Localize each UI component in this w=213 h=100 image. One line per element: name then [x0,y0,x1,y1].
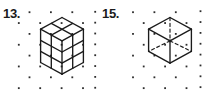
worksheet-page: 13. 15. [0,0,213,100]
visible-edge [170,51,191,63]
grid-dot [200,43,202,45]
grid-dot [94,33,96,35]
grid-dot [29,33,31,35]
grid-dot [39,87,41,89]
grid-dot [82,66,84,68]
grid-dot [29,55,31,57]
grid-dot [164,87,166,89]
visible-edge [149,18,170,30]
grid-dot [94,54,96,56]
grid-dot [186,22,188,24]
grid-dot [200,86,202,88]
grid-dot [132,33,134,35]
grid-dot [132,76,134,78]
grid-dot [94,87,96,89]
visible-edge [170,18,191,30]
hidden-edge [170,41,191,52]
grid-dot [154,11,156,13]
grid-dot [94,76,96,78]
grid-dot [186,44,188,46]
grid-dot [175,33,177,35]
visible-edge [149,51,170,63]
grid-dot [29,11,31,13]
grid-dot [94,65,96,67]
grid-dot [200,10,202,12]
grid-dot [164,22,166,24]
grid-dot [39,66,41,68]
grid-dot [82,22,84,24]
vertex-node [169,40,172,43]
grid-dot [18,44,20,46]
grid-dot [132,11,134,13]
isometric-figures-svg [0,0,213,100]
grid-dot [143,66,145,68]
grid-dot [61,87,63,89]
grid-dot [200,75,202,77]
grid-dot [175,76,177,78]
grid-dot [186,66,188,68]
grid-dot [94,11,96,13]
grid-dot [39,22,41,24]
grid-dot [18,22,20,24]
grid-dot [200,65,202,67]
grid-dot [61,22,63,24]
grid-dot [50,76,52,78]
grid-dot [200,21,202,23]
grid-dot [29,76,31,78]
grid-dot [164,66,166,68]
grid-dot [18,87,20,89]
grid-dot [143,22,145,24]
grid-dot [143,87,145,89]
grid-dot [143,44,145,46]
grid-dot [50,11,52,13]
grid-dot [18,66,20,68]
visible-edge [149,29,170,41]
grid-dot [175,55,177,57]
grid-dot [82,87,84,89]
figure-13-group [18,11,96,89]
visible-edge [170,29,191,41]
grid-dot [94,43,96,45]
figure-15-group [132,10,201,89]
grid-dot [71,76,73,78]
grid-dot [186,87,188,89]
grid-dot [132,55,134,57]
grid-dot [154,76,156,78]
grid-dot [71,11,73,13]
grid-dot [94,22,96,24]
hidden-edge [149,41,170,52]
grid-dot [200,54,202,56]
grid-dot [200,32,202,34]
grid-dot [175,11,177,13]
